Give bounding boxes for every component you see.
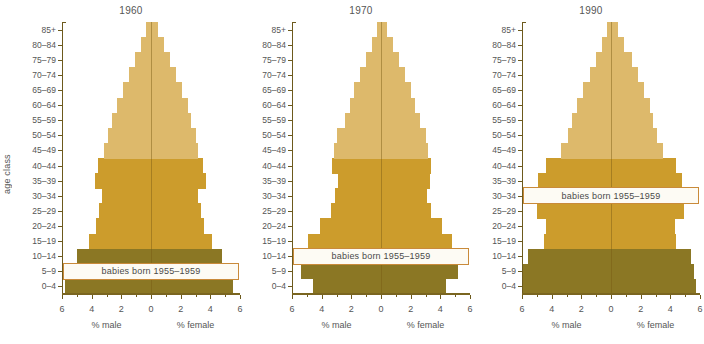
x-tick-major: [440, 295, 441, 299]
y-tick-label-15–19: 15–19: [32, 236, 56, 246]
bar-female-1960-85+: [151, 22, 158, 38]
y-tick: [58, 90, 62, 91]
bar-male-1990-75–79: [596, 52, 611, 68]
x-tick-major: [381, 295, 382, 299]
bar-male-1960-55–59: [112, 113, 151, 129]
bar-female-1970-30–34: [381, 188, 427, 204]
plot-area-1970: 0–45–910–1415–1920–2425–2930–3435–3940–4…: [292, 22, 470, 294]
y-tick-label-35–39: 35–39: [492, 176, 516, 186]
y-tick-label-85+: 85+: [272, 25, 286, 35]
y-tick: [58, 271, 62, 272]
bar-male-1990-25–29: [537, 203, 611, 219]
y-tick-label-70–74: 70–74: [32, 70, 56, 80]
bar-female-1990-85+: [611, 22, 618, 38]
bar-male-1960-60–64: [117, 98, 151, 114]
bar-female-1990-50–54: [611, 128, 657, 144]
x-tick-label: 4: [319, 304, 324, 314]
panel-title-1960: 1960: [18, 5, 244, 16]
bar-male-1970-80–84: [372, 37, 381, 53]
x-tick-minor: [77, 295, 78, 297]
y-tick-label-85+: 85+: [502, 25, 516, 35]
y-tick: [518, 256, 522, 257]
x-tick-major: [700, 295, 701, 299]
x-tick-label: 4: [438, 304, 443, 314]
cohort-annotation-1960: babies born 1955–1959: [63, 263, 239, 280]
plot-area-1960: 0–45–910–1415–1920–2425–2930–3435–3940–4…: [62, 22, 240, 294]
x-tick-major: [411, 295, 412, 299]
x-tick-major: [470, 295, 471, 299]
y-tick: [288, 211, 292, 212]
y-tick-label-10–14: 10–14: [32, 251, 56, 261]
bar-male-1970-65–69: [354, 82, 381, 98]
x-tick-minor: [366, 295, 367, 297]
y-tick: [288, 150, 292, 151]
bar-female-1990-10–14: [611, 249, 691, 265]
y-tick-label-55–59: 55–59: [492, 115, 516, 125]
bar-male-1990-15–19: [544, 234, 611, 250]
x-tick-label: 2: [178, 304, 183, 314]
y-tick-label-70–74: 70–74: [262, 70, 286, 80]
bar-male-1970-50–54: [337, 128, 382, 144]
bar-female-1960-65–69: [151, 82, 182, 98]
y-tick-label-10–14: 10–14: [492, 251, 516, 261]
x-tick-major: [92, 295, 93, 299]
bar-male-1970-30–34: [335, 188, 381, 204]
bar-female-1970-35–39: [381, 173, 430, 189]
y-tick-label-60–64: 60–64: [262, 100, 286, 110]
y-tick-label-55–59: 55–59: [32, 115, 56, 125]
x-tick-label: 4: [549, 304, 554, 314]
x-tick-label: 6: [697, 304, 702, 314]
x-tick-minor: [166, 295, 167, 297]
pyramid-panel-1960: 19600–45–910–1415–1920–2425–2930–3435–39…: [18, 0, 244, 344]
x-tick-label: 2: [349, 304, 354, 314]
y-axis-cap-top: [522, 22, 526, 23]
y-tick-label-0–4: 0–4: [42, 281, 56, 291]
bar-female-1960-20–24: [151, 218, 204, 234]
y-tick: [288, 120, 292, 121]
bar-male-1990-55–59: [572, 113, 611, 129]
y-tick-label-55–59: 55–59: [262, 115, 286, 125]
y-tick-label-5–9: 5–9: [272, 266, 286, 276]
x-tick-major: [62, 295, 63, 299]
x-tick-label: 2: [638, 304, 643, 314]
x-axis-label-male: % male: [321, 320, 351, 330]
y-tick-label-80–84: 80–84: [32, 40, 56, 50]
bar-male-1970-5–9: [301, 264, 381, 280]
bar-male-1990-80–84: [602, 37, 611, 53]
y-tick-label-15–19: 15–19: [262, 236, 286, 246]
y-tick: [518, 120, 522, 121]
bar-male-1960-30–34: [102, 188, 151, 204]
bar-female-1960-55–59: [151, 113, 191, 129]
x-tick-minor: [426, 295, 427, 297]
y-tick-label-30–34: 30–34: [262, 191, 286, 201]
y-tick: [518, 211, 522, 212]
y-tick: [518, 60, 522, 61]
y-tick-label-25–29: 25–29: [262, 206, 286, 216]
bar-female-1990-60–64: [611, 98, 650, 114]
bar-female-1990-5–9: [611, 264, 694, 280]
y-tick: [58, 105, 62, 106]
bar-male-1990-5–9: [523, 264, 611, 280]
x-tick-label: 0: [378, 304, 383, 314]
bar-female-1960-80–84: [151, 37, 164, 53]
bar-male-1970-40–44: [332, 158, 381, 174]
y-tick-label-50–54: 50–54: [32, 130, 56, 140]
y-tick: [288, 181, 292, 182]
y-tick-label-45–49: 45–49: [492, 145, 516, 155]
bar-female-1990-25–29: [611, 203, 684, 219]
bar-female-1970-50–54: [381, 128, 426, 144]
bar-male-1990-20–24: [546, 218, 611, 234]
y-tick-label-35–39: 35–39: [32, 176, 56, 186]
bar-male-1960-65–69: [123, 82, 151, 98]
x-tick-minor: [596, 295, 597, 297]
panel-title-1970: 1970: [248, 5, 474, 16]
bar-male-1990-10–14: [528, 249, 611, 265]
x-tick-major: [351, 295, 352, 299]
x-tick-major: [151, 295, 152, 299]
x-tick-major: [552, 295, 553, 299]
y-axis-cap-top: [62, 22, 66, 23]
x-tick-minor: [656, 295, 657, 297]
y-tick: [58, 256, 62, 257]
y-tick: [58, 241, 62, 242]
y-tick-label-65–69: 65–69: [492, 85, 516, 95]
